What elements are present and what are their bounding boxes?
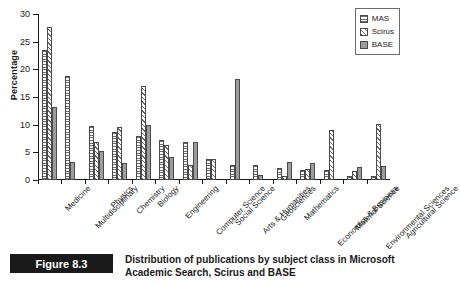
bar xyxy=(99,151,104,180)
bar xyxy=(70,162,75,180)
x-axis-label-0: Medicine xyxy=(63,184,92,213)
figure-chart: Percentage 051015202530 MedicineMultidis… xyxy=(0,0,408,250)
figure-caption: Figure 8.3 Distribution of publications … xyxy=(0,254,408,285)
bar-group xyxy=(371,124,386,180)
bar xyxy=(193,142,198,180)
y-tick-label-25: 25 xyxy=(20,37,30,46)
chart-legend: MAS Scirus BASE xyxy=(355,8,400,55)
bar xyxy=(381,166,386,180)
legend-swatch-mas-icon xyxy=(360,15,368,23)
x-tick-11 xyxy=(296,180,297,184)
legend-label-base: BASE xyxy=(372,41,393,49)
bar-group xyxy=(136,86,151,180)
bar-group xyxy=(42,27,57,180)
plot-area: 051015202530 xyxy=(38,14,390,180)
bar-group xyxy=(347,167,362,180)
y-tick-label-20: 20 xyxy=(20,65,30,74)
x-tick-7 xyxy=(202,180,203,184)
x-axis-label-12: Material Science xyxy=(353,184,401,232)
bar xyxy=(169,157,174,180)
bar-group xyxy=(277,162,292,180)
y-tick-20 xyxy=(33,69,38,70)
bar xyxy=(287,162,292,180)
figure-caption-text: Distribution of publications by subject … xyxy=(125,254,400,279)
bar xyxy=(329,130,334,180)
x-tick-12 xyxy=(320,180,321,184)
bar xyxy=(52,107,57,180)
bar xyxy=(211,159,216,180)
bar-group xyxy=(89,126,104,180)
x-axis-label-5: Engineering xyxy=(184,184,221,221)
bar-group xyxy=(230,79,240,180)
x-tick-14 xyxy=(367,180,368,184)
x-tick-1 xyxy=(61,180,62,184)
bar-group xyxy=(206,159,216,180)
bar-group xyxy=(253,165,263,180)
bar-group xyxy=(324,130,334,180)
bar-group xyxy=(183,142,198,180)
legend-item-scirus: Scirus xyxy=(360,25,394,38)
bar-group xyxy=(112,127,127,180)
x-tick-10 xyxy=(273,180,274,184)
x-tick-3 xyxy=(108,180,109,184)
figure-number-badge: Figure 8.3 xyxy=(10,254,113,273)
x-tick-9 xyxy=(249,180,250,184)
x-axis-label-14: Agricultural Science xyxy=(403,184,459,240)
legend-item-base: BASE xyxy=(360,38,394,51)
x-tick-0 xyxy=(38,180,39,184)
y-axis-line xyxy=(38,14,39,180)
x-tick-5 xyxy=(155,180,156,184)
legend-swatch-base-icon xyxy=(360,41,368,49)
x-tick-13 xyxy=(343,180,344,184)
bar-group xyxy=(159,140,174,180)
bar xyxy=(357,167,362,180)
legend-label-mas: MAS xyxy=(372,15,389,23)
legend-label-scirus: Scirus xyxy=(372,28,394,36)
bar xyxy=(310,163,315,180)
bar xyxy=(122,163,127,180)
y-tick-10 xyxy=(33,125,38,126)
legend-swatch-scirus-icon xyxy=(360,28,368,36)
y-tick-label-5: 5 xyxy=(25,148,30,157)
bar-group xyxy=(65,76,75,180)
y-tick-label-0: 0 xyxy=(25,176,30,185)
x-tick-6 xyxy=(179,180,180,184)
x-axis-label-6: Computer Science xyxy=(214,184,267,237)
bar-group xyxy=(300,163,315,180)
y-tick-30 xyxy=(33,14,38,15)
bar xyxy=(235,79,240,180)
y-tick-15 xyxy=(33,97,38,98)
y-tick-label-15: 15 xyxy=(20,93,30,102)
y-tick-25 xyxy=(33,42,38,43)
x-tick-8 xyxy=(226,180,227,184)
bar xyxy=(146,125,151,180)
y-tick-label-30: 30 xyxy=(20,10,30,19)
y-tick-label-10: 10 xyxy=(20,120,30,129)
bar xyxy=(258,175,263,180)
y-tick-5 xyxy=(33,152,38,153)
y-axis-label: Percentage xyxy=(9,30,19,120)
legend-item-mas: MAS xyxy=(360,12,394,25)
